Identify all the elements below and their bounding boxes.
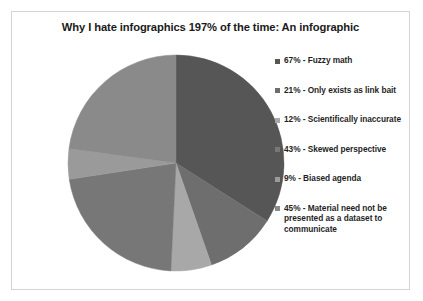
legend-item: 21% - Only exists as link bait bbox=[275, 85, 421, 96]
legend-item: 67% - Fuzzy math bbox=[275, 55, 421, 66]
legend-item: 43% - Skewed perspective bbox=[275, 144, 421, 155]
legend-item-label: 21% - Only exists as link bait bbox=[284, 85, 396, 96]
pie-slice-group bbox=[68, 55, 284, 271]
legend-swatch-icon bbox=[275, 177, 280, 182]
legend-item-label: 43% - Skewed perspective bbox=[284, 144, 386, 155]
legend-swatch-icon bbox=[275, 88, 280, 93]
legend-item-label: 45% - Material need not be presented as … bbox=[284, 203, 421, 235]
legend-swatch-icon bbox=[275, 59, 280, 64]
pie-slice bbox=[69, 55, 176, 163]
legend-item-label: 9% - Biased agenda bbox=[284, 173, 361, 184]
legend-item-label: 67% - Fuzzy math bbox=[284, 55, 352, 66]
legend-item-label: 12% - Scientifically inaccurate bbox=[284, 114, 401, 125]
chart-legend: 67% - Fuzzy math21% - Only exists as lin… bbox=[275, 55, 421, 253]
legend-swatch-icon bbox=[275, 147, 280, 152]
pie-slice bbox=[69, 163, 176, 271]
legend-swatch-icon bbox=[275, 206, 280, 211]
pie-chart-svg bbox=[57, 44, 285, 284]
pie-chart bbox=[57, 44, 285, 284]
page-title: Why I hate infographics 197% of the time… bbox=[12, 21, 409, 34]
legend-item: 45% - Material need not be presented as … bbox=[275, 203, 421, 235]
legend-swatch-icon bbox=[275, 118, 280, 123]
legend-item: 9% - Biased agenda bbox=[275, 173, 421, 184]
chart-frame: Why I hate infographics 197% of the time… bbox=[11, 11, 410, 290]
legend-item: 12% - Scientifically inaccurate bbox=[275, 114, 421, 125]
